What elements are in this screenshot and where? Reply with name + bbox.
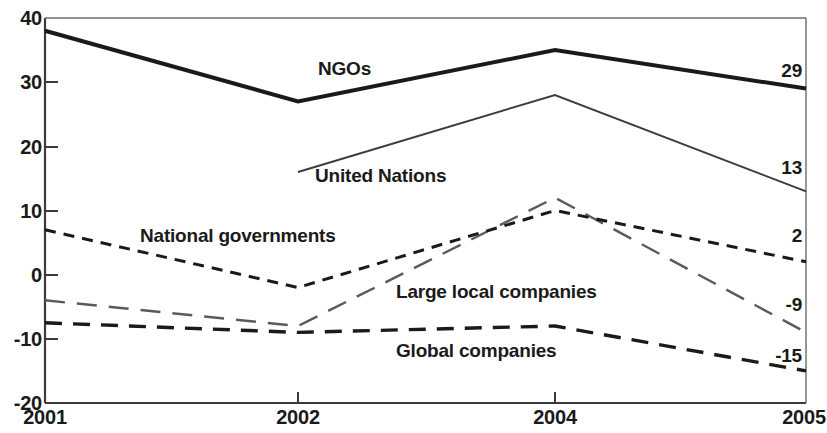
chart-canvas	[0, 0, 827, 433]
y-tick-label-minus10: -10	[0, 328, 42, 351]
x-tick-label-2001: 2001	[5, 406, 85, 429]
end-value-global-companies: -15	[762, 345, 802, 367]
series-label-ngos: NGOs	[318, 58, 371, 80]
line-chart: 40 30 20 10 0 -10 -20 2001 2002 2004 200…	[0, 0, 827, 433]
y-tick-label-0: 0	[0, 264, 42, 287]
series-label-national-governments: National governments	[140, 225, 336, 247]
y-tick-label-30: 30	[0, 71, 42, 94]
series-line-ngos-main	[45, 31, 806, 102]
y-tick-label-20: 20	[0, 136, 42, 159]
series-label-global-companies: Global companies	[396, 340, 556, 362]
x-axis-ticks	[298, 392, 555, 403]
x-tick-label-2004: 2004	[515, 406, 595, 429]
y-tick-label-10: 10	[0, 200, 42, 223]
end-value-large-local-companies: -9	[762, 294, 802, 316]
series-line-national-governments	[45, 211, 806, 288]
x-tick-label-2005: 2005	[764, 406, 827, 429]
end-value-national-governments: 2	[762, 225, 802, 247]
end-value-ngos: 29	[762, 60, 802, 82]
end-value-united-nations: 13	[762, 157, 802, 179]
y-tick-label-40: 40	[0, 7, 42, 30]
series-label-large-local-companies: Large local companies	[396, 281, 597, 303]
series-line-large-local-companies	[45, 198, 806, 333]
x-tick-label-2002: 2002	[258, 406, 338, 429]
series-label-united-nations: United Nations	[315, 165, 446, 187]
